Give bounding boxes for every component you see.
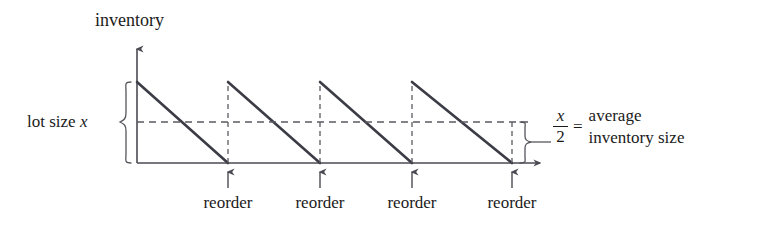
average-inventory-text: average inventory size [589,105,685,149]
fraction-x-over-2: x 2 [553,107,568,146]
lot-size-label-text: lot size [27,112,80,131]
reorder-arrows [228,172,512,188]
average-inventory-line-1: average [589,105,685,127]
lot-size-variable: x [80,112,88,131]
lot-size-label: lot size x [27,113,87,130]
fraction-denominator: 2 [556,128,565,146]
average-inventory-line-2: inventory size [589,127,685,149]
equals-sign: = [573,117,583,137]
fraction-numerator: x [554,107,568,125]
reorder-label-1: reorder [203,194,252,211]
reorder-label-2: reorder [295,194,344,211]
y-axis-label: inventory [95,11,164,29]
lot-size-brace [120,82,131,163]
reorder-label-3: reorder [387,194,436,211]
reorder-label-4: reorder [487,194,536,211]
average-inventory-brace [520,122,531,163]
average-inventory-annotation: x 2 = average inventory size [553,105,684,149]
